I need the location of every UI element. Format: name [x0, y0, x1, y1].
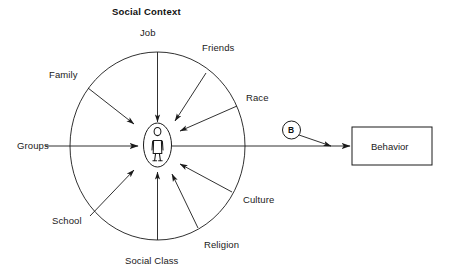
race-influence-arrow [180, 106, 237, 131]
behavior-marker-pointer [299, 135, 331, 146]
behavior-box-label: Behavior [371, 141, 409, 152]
behavior-marker-label: B [288, 125, 294, 135]
label-friends: Friends [202, 42, 234, 53]
label-family: Family [49, 69, 78, 80]
culture-influence-arrow [180, 164, 232, 192]
religion-influence-arrow [172, 174, 198, 228]
figure-title: Social Context [112, 6, 181, 17]
diagram-canvas: Social Context Job Friends Race Culture … [0, 0, 466, 275]
family-influence-arrow [88, 88, 134, 124]
label-religion: Religion [204, 239, 239, 250]
label-culture: Culture [243, 194, 274, 205]
label-job: Job [140, 27, 156, 38]
label-race: Race [246, 92, 269, 103]
school-influence-arrow [90, 170, 134, 216]
label-school: School [52, 215, 82, 226]
friends-influence-arrow [175, 73, 206, 121]
label-social-class: Social Class [125, 255, 178, 266]
label-groups: Groups [17, 140, 49, 151]
